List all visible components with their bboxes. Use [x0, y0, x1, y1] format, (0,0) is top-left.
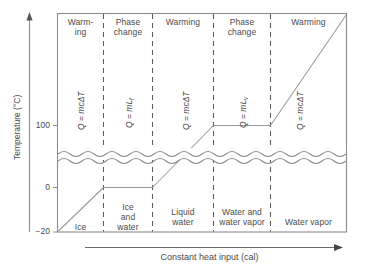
state-label-region-5-line1: Water vapor: [271, 217, 346, 227]
formula-region-4: Q = mLv: [238, 97, 249, 128]
formula-region-2: Q = mLf: [124, 98, 135, 128]
formula-region-1: Q = mcΔT: [76, 91, 86, 130]
phase-label-region-2-line2: change: [104, 27, 152, 37]
y-tick-label-minus20: −20: [10, 226, 50, 236]
state-label-region-2-line1: Ice: [104, 202, 152, 212]
y-tick-label-100: 100: [14, 120, 50, 130]
formula-region-1-eq: =: [76, 114, 86, 124]
x-axis-arrow: [85, 244, 343, 251]
formula-region-2-body: mL: [124, 100, 134, 112]
formula-region-5-eq: =: [295, 114, 305, 124]
phase-label-region-4-line1: Phase: [214, 17, 270, 27]
formula-region-2-sub: f: [128, 98, 135, 100]
axis-break-wave: [58, 148, 346, 164]
formula-region-3: Q = mcΔT: [181, 91, 191, 130]
state-label-region-1-line1: Ice: [58, 222, 103, 232]
formula-region-1-body: mcΔT: [76, 91, 86, 113]
formula-region-5: Q = mcΔT: [295, 91, 305, 130]
y-tick-label-0: 0: [14, 182, 50, 192]
state-label-region-3-line2: water: [153, 217, 213, 227]
y-tick-marks: [53, 126, 58, 233]
formula-region-1-q: Q: [76, 123, 86, 130]
formula-region-3-q: Q: [181, 123, 191, 130]
chart-canvas: [0, 0, 369, 270]
phase-label-region-1-line2: ing: [58, 27, 103, 37]
formula-region-5-q: Q: [295, 123, 305, 130]
formula-region-5-body: mcΔT: [295, 91, 305, 113]
formula-region-4-body: mL: [238, 100, 248, 112]
x-axis-title: Constant heat input (cal): [117, 252, 302, 262]
state-label-region-4-line1: Water and: [209, 207, 275, 217]
state-label-region-4-line2: water vapor: [209, 217, 275, 227]
state-label-region-2-line3: water: [104, 222, 152, 232]
formula-region-4-eq: =: [238, 112, 248, 122]
phase-label-region-5-line1: Warming: [271, 17, 346, 27]
phase-label-region-2-line1: Phase: [104, 17, 152, 27]
phase-label-region-3-line1: Warming: [153, 17, 213, 27]
heating-curve-figure: Temperature (°C) 100 0 −20 Warm- ing Q =…: [0, 0, 369, 270]
state-label-region-3-line1: Liquid: [153, 207, 213, 217]
formula-region-2-q: Q: [124, 121, 134, 128]
formula-region-3-eq: =: [181, 114, 191, 124]
phase-label-region-1-line1: Warm-: [58, 17, 103, 27]
formula-region-3-body: mcΔT: [181, 91, 191, 113]
formula-region-4-sub: v: [242, 97, 249, 100]
curve-segment-vapor-warming: [271, 15, 347, 126]
formula-region-2-eq: =: [124, 112, 134, 122]
phase-label-region-4-line2: change: [214, 27, 270, 37]
state-label-region-2-line2: and: [104, 212, 152, 222]
formula-region-4-q: Q: [238, 121, 248, 128]
